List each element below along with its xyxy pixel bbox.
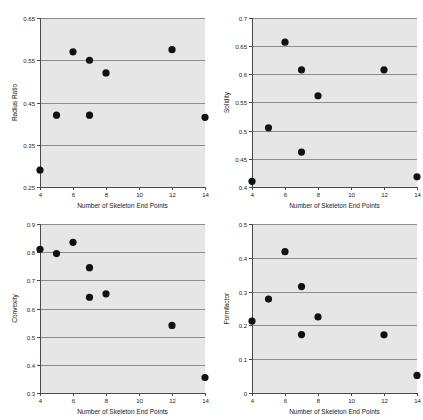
data-point-marker [248, 317, 255, 324]
x-tick-label: 4 [251, 192, 255, 198]
data-point-marker [102, 69, 109, 76]
data-point-marker [298, 148, 305, 155]
x-tick-label: 10 [136, 192, 143, 198]
x-tick-label: 8 [317, 192, 321, 198]
chart-panel-bottom-left: 0.30.40.50.60.70.80.9468101214Number of … [0, 210, 211, 420]
data-point-marker [168, 322, 175, 329]
x-tick-label: 8 [105, 398, 109, 404]
data-point-marker [413, 372, 420, 379]
x-tick-label: 14 [414, 192, 421, 198]
x-tick-label: 10 [136, 398, 143, 404]
y-tick-label: 0.65 [23, 16, 35, 22]
data-point-marker [69, 239, 76, 246]
y-tick-label: 0.7 [239, 16, 248, 22]
x-tick-label: 6 [284, 398, 288, 404]
data-point-marker [298, 283, 305, 290]
y-tick-label: 0.45 [23, 101, 35, 107]
data-point-marker [168, 46, 175, 53]
x-axis-title: Number of Skeleton End Points [289, 408, 380, 415]
plot-area-background [40, 224, 205, 393]
x-axis-title: Number of Skeleton End Points [77, 202, 168, 209]
x-tick-label: 14 [414, 398, 421, 404]
data-point-marker [413, 173, 420, 180]
data-point-marker [86, 294, 93, 301]
plot-area-background [252, 224, 417, 393]
y-tick-label: 0.55 [235, 100, 247, 106]
x-tick-label: 10 [348, 192, 355, 198]
x-tick-label: 6 [72, 398, 76, 404]
x-tick-label: 14 [202, 192, 209, 198]
data-point-marker [314, 92, 321, 99]
data-point-marker [380, 331, 387, 338]
x-tick-label: 4 [39, 398, 43, 404]
data-point-marker [314, 313, 321, 320]
scatter-plot-figure: 0.250.350.450.550.65468101214Number of S… [0, 0, 423, 420]
y-tick-label: 0 [244, 391, 248, 397]
y-tick-label: 0.9 [27, 222, 36, 228]
y-tick-label: 0.7 [27, 278, 36, 284]
y-axis-title: Solidity [223, 91, 231, 113]
plot-area-background [40, 18, 205, 187]
x-tick-label: 4 [251, 398, 255, 404]
data-point-marker [69, 48, 76, 55]
x-tick-label: 10 [348, 398, 355, 404]
data-point-marker [281, 39, 288, 46]
y-tick-label: 0.4 [239, 185, 248, 191]
y-tick-label: 0.35 [23, 143, 35, 149]
chart-panel-bottom-right: 00.10.20.30.40.5468101214Number of Skele… [211, 210, 423, 420]
y-tick-label: 0.6 [239, 72, 248, 78]
y-tick-label: 0.3 [27, 391, 36, 397]
data-point-marker [265, 295, 272, 302]
data-point-marker [201, 114, 208, 121]
data-point-marker [265, 124, 272, 131]
y-axis-title: Convexity [11, 293, 19, 322]
y-tick-label: 0.2 [239, 323, 248, 329]
y-tick-label: 0.55 [23, 58, 35, 64]
data-point-marker [86, 264, 93, 271]
x-axis-title: Number of Skeleton End Points [289, 202, 380, 209]
x-tick-label: 12 [169, 192, 176, 198]
x-tick-label: 8 [317, 398, 321, 404]
y-tick-label: 0.4 [239, 256, 248, 262]
data-point-marker [86, 112, 93, 119]
x-tick-label: 4 [39, 192, 43, 198]
x-tick-label: 14 [202, 398, 209, 404]
y-tick-label: 0.6 [27, 307, 36, 313]
chart-panel-top-right: 0.40.450.50.550.60.650.7468101214Number … [211, 0, 423, 210]
data-point-marker [36, 246, 43, 253]
y-tick-label: 0.8 [27, 250, 36, 256]
x-tick-label: 6 [284, 192, 288, 198]
data-point-marker [281, 248, 288, 255]
data-point-marker [298, 331, 305, 338]
x-axis-title: Number of Skeleton End Points [77, 408, 168, 415]
x-tick-label: 12 [381, 398, 388, 404]
data-point-marker [53, 112, 60, 119]
data-point-marker [86, 57, 93, 64]
y-tick-label: 0.4 [27, 363, 36, 369]
x-tick-label: 8 [105, 192, 109, 198]
x-tick-label: 6 [72, 192, 76, 198]
data-point-marker [36, 167, 43, 174]
y-tick-label: 0.25 [23, 185, 35, 191]
y-tick-label: 0.5 [27, 335, 36, 341]
y-tick-label: 0.1 [239, 357, 248, 363]
y-tick-label: 0.45 [235, 157, 247, 163]
data-point-marker [53, 250, 60, 257]
data-point-marker [201, 374, 208, 381]
y-tick-label: 0.5 [239, 222, 248, 228]
x-tick-label: 12 [169, 398, 176, 404]
y-tick-label: 0.5 [239, 129, 248, 135]
y-tick-label: 0.65 [235, 44, 247, 50]
y-tick-label: 0.3 [239, 290, 248, 296]
chart-panel-top-left: 0.250.350.450.550.65468101214Number of S… [0, 0, 211, 210]
data-point-marker [102, 290, 109, 297]
data-point-marker [248, 178, 255, 185]
x-tick-label: 12 [381, 192, 388, 198]
data-point-marker [380, 66, 387, 73]
data-point-marker [298, 66, 305, 73]
y-axis-title: Formfactor [223, 292, 230, 324]
y-axis-title: Radius Ratio [11, 84, 18, 122]
